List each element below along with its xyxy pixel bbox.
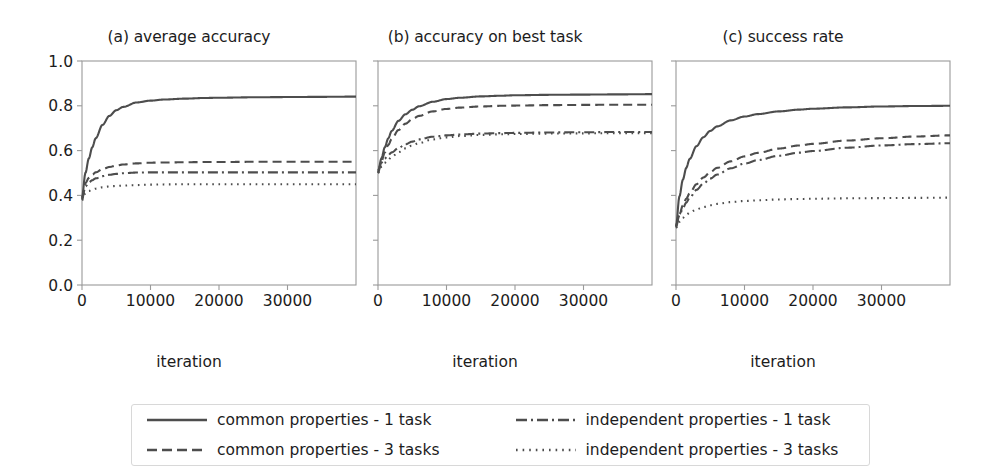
legend-item-independent-1-task[interactable]: independent properties - 1 task xyxy=(501,411,870,429)
x-tick-label: 20000 xyxy=(194,292,243,310)
legend-label-0: common properties - 1 task xyxy=(217,411,431,429)
y-tick-label: 1.0 xyxy=(48,53,73,71)
x-tick-label: 20000 xyxy=(788,292,837,310)
figure-canvas: (a) average accuracy 0.00.20.40.60.81.00… xyxy=(0,0,999,475)
series-line xyxy=(676,198,950,228)
x-tick-label: 30000 xyxy=(263,292,312,310)
x-tick-label: 30000 xyxy=(559,292,608,310)
legend-line-sample-dashed xyxy=(146,444,208,456)
x-tick-label: 10000 xyxy=(422,292,471,310)
y-tick-label: 0.2 xyxy=(48,232,73,250)
y-tick-label: 0.4 xyxy=(48,187,73,205)
legend-box: common properties - 1 task independent p… xyxy=(131,404,870,466)
x-tick-label: 0 xyxy=(373,292,383,310)
legend-line-sample-solid xyxy=(146,414,208,426)
y-tick-label: 0.0 xyxy=(48,277,73,295)
x-tick-label: 0 xyxy=(77,292,87,310)
legend-line-sample-dotted xyxy=(515,444,577,456)
legend-label-2: independent properties - 1 task xyxy=(586,411,831,429)
panel-title-c: (c) success rate xyxy=(608,28,958,46)
legend-item-independent-3-tasks[interactable]: independent properties - 3 tasks xyxy=(501,441,870,459)
y-tick-label: 0.8 xyxy=(48,97,73,115)
legend-line-sample-dashdot xyxy=(515,414,577,426)
plot-area-c: 0100002000030000 xyxy=(608,57,958,313)
y-tick-label: 0.6 xyxy=(48,142,73,160)
plot-svg-c: 0100002000030000 xyxy=(608,57,958,313)
series-line xyxy=(676,143,950,225)
x-axis-label-c: iteration xyxy=(608,353,958,371)
legend-label-1: common properties - 3 tasks xyxy=(217,441,439,459)
series-line xyxy=(676,106,950,227)
series-line xyxy=(676,135,950,227)
plot-frame xyxy=(676,61,950,285)
x-tick-label: 0 xyxy=(671,292,681,310)
panel-success-rate: (c) success rate 0100002000030000 iterat… xyxy=(608,28,958,328)
legend-label-3: independent properties - 3 tasks xyxy=(586,441,839,459)
x-tick-label: 30000 xyxy=(857,292,906,310)
x-tick-label: 20000 xyxy=(490,292,539,310)
legend-item-common-3-tasks[interactable]: common properties - 3 tasks xyxy=(132,441,501,459)
x-tick-label: 10000 xyxy=(720,292,769,310)
legend-item-common-1-task[interactable]: common properties - 1 task xyxy=(132,411,501,429)
x-tick-label: 10000 xyxy=(126,292,175,310)
